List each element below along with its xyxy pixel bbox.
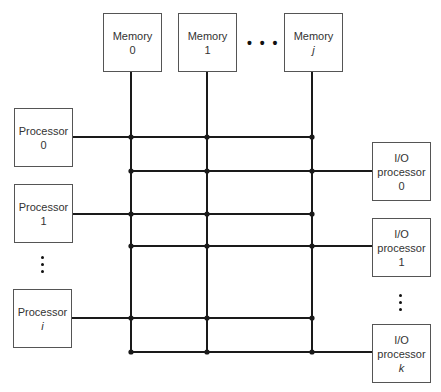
memory-1-box: Memory 1 [178, 13, 237, 72]
processor-0-label: Processor [19, 124, 69, 138]
io-processor-0-line1: I/O [394, 151, 409, 165]
memory-ellipsis: • • • [247, 35, 279, 51]
memory-j-label: Memory [294, 29, 334, 43]
memory-0-box: Memory 0 [103, 13, 162, 72]
io-processor-1-line2: processor [377, 241, 425, 255]
memory-j-index: j [312, 43, 314, 57]
processor-ellipsis [41, 256, 45, 277]
io-processor-k-line1: I/O [394, 333, 409, 347]
io-processor-k-box: I/O processor k [372, 324, 431, 383]
io-processor-1-box: I/O processor 1 [372, 218, 431, 277]
processor-i-index: i [41, 319, 43, 333]
io-processor-0-box: I/O processor 0 [372, 142, 431, 201]
processor-0-box: Processor 0 [14, 108, 73, 167]
processor-1-box: Processor 1 [14, 184, 73, 243]
memory-1-index: 1 [204, 43, 210, 57]
processor-i-box: Processor i [13, 289, 72, 348]
memory-j-box: Memory j [284, 13, 343, 72]
processor-1-label: Processor [19, 200, 69, 214]
processor-i-label: Processor [18, 305, 68, 319]
processor-0-index: 0 [40, 138, 46, 152]
io-processor-k-line2: processor [377, 347, 425, 361]
io-processor-0-line2: processor [377, 165, 425, 179]
io-processor-0-index: 0 [398, 179, 404, 193]
io-processor-k-index: k [399, 361, 405, 375]
memory-0-label: Memory [113, 29, 153, 43]
memory-1-label: Memory [188, 29, 228, 43]
io-processor-ellipsis [399, 294, 403, 315]
processor-1-index: 1 [40, 214, 46, 228]
io-processor-1-index: 1 [398, 255, 404, 269]
io-processor-1-line1: I/O [394, 227, 409, 241]
memory-0-index: 0 [129, 43, 135, 57]
